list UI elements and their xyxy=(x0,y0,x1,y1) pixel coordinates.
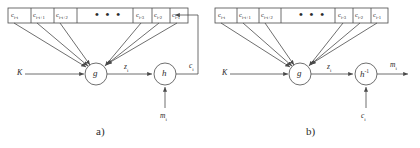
z-signal-label: zi xyxy=(327,63,331,73)
c-input-label: ci xyxy=(361,112,366,122)
tap-line xyxy=(60,23,90,65)
register-cell-label: ci-t+2 xyxy=(261,12,273,21)
node-g-label: g xyxy=(93,69,98,78)
register-cell-label: ci-t+1 xyxy=(239,12,251,21)
register-cell-label: ci-t xyxy=(218,12,225,21)
key-input-label: K xyxy=(222,69,227,77)
register-cell-label: ci-1 xyxy=(172,12,180,21)
tap-line xyxy=(37,23,88,66)
key-input-label: K xyxy=(17,69,22,77)
register-cell-label: ci-t xyxy=(11,12,18,21)
register-cell-label: ci-3 xyxy=(136,12,144,21)
register-cell-label: ci-t+2 xyxy=(56,12,68,21)
node-g-label: g xyxy=(297,69,302,78)
m-input-label: mi xyxy=(160,112,167,122)
register-ellipsis: • • • xyxy=(95,9,122,20)
register-cell-label: ci-1 xyxy=(373,12,381,21)
panel-a-encryption: ci-t ci-t+1 ci-t+2 • • • ci-3 ci-2 ci-1 … xyxy=(0,0,210,148)
m-output-label: mi xyxy=(390,61,397,71)
panel-b-decryption: ci-t ci-t+1 ci-t+2 • • • ci-3 ci-2 ci-1 … xyxy=(210,0,420,148)
register-cell-label: ci-2 xyxy=(154,12,162,21)
panel-a-graphics xyxy=(0,0,210,148)
tap-line xyxy=(14,23,86,67)
tap-line xyxy=(105,23,141,66)
tap-line xyxy=(107,23,177,64)
panel-caption: b) xyxy=(306,126,315,137)
register-cell-label: ci-t+1 xyxy=(33,12,45,21)
tap-line xyxy=(106,23,159,65)
tap-line xyxy=(310,23,360,65)
tap-line xyxy=(243,23,292,66)
tap-line xyxy=(311,23,377,64)
register-cell-label: ci-2 xyxy=(355,12,363,21)
node-h-inverse-label: h-1 xyxy=(360,69,369,79)
z-signal-label: zi xyxy=(124,63,128,73)
tap-line xyxy=(309,23,343,66)
node-h-label: h xyxy=(162,69,167,78)
c-output-label: ci xyxy=(189,62,194,72)
tap-line xyxy=(221,23,290,67)
panel-caption: a) xyxy=(96,126,105,137)
register-cell-label: ci-3 xyxy=(338,12,346,21)
register-ellipsis: • • • xyxy=(299,9,326,20)
tap-line xyxy=(265,23,294,65)
